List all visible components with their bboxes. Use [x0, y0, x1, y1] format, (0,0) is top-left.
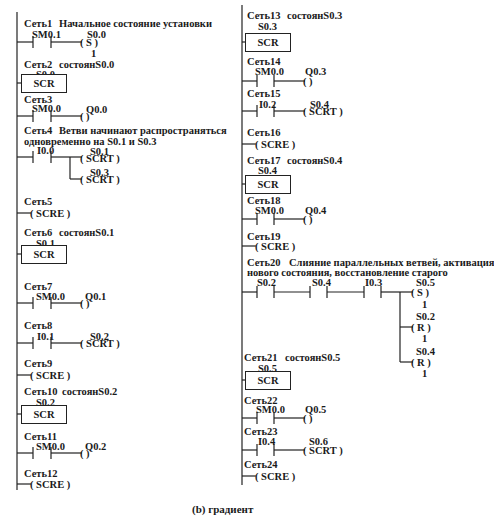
- contact-address: S0.2: [257, 277, 276, 288]
- network-comment: состоянS0.0: [59, 59, 114, 70]
- network-label: Сеть24: [244, 459, 278, 470]
- scr-box: SCR: [21, 74, 67, 93]
- coil-address: S0.4: [416, 346, 435, 357]
- network-comment: состоянS0.2: [62, 386, 117, 397]
- scr-box: SCR: [245, 33, 291, 52]
- network-label: Сеть1: [24, 18, 52, 29]
- output-coil: ( ): [80, 298, 90, 309]
- network-comment: состоянS0.1: [59, 227, 114, 238]
- scre-coil: ( SCRE ): [30, 370, 70, 381]
- scr-address: S0.3: [258, 21, 277, 32]
- network-comment: состоянS0.4: [287, 155, 342, 166]
- contact-address: S0.4: [312, 277, 331, 288]
- contact-address: I0.4: [258, 436, 275, 447]
- scre-coil: ( SCRE ): [255, 139, 295, 150]
- network-label: Сеть9: [24, 358, 52, 369]
- network-comment: Ветви начинают распространяться: [59, 125, 227, 136]
- network-label: Сеть13: [247, 10, 281, 21]
- network-label: Сеть16: [247, 127, 281, 138]
- network-label: Сеть10: [24, 386, 58, 397]
- contact-address: I0.1: [37, 331, 54, 342]
- coil-count: 1: [422, 368, 427, 379]
- scre-coil: ( SCRE ): [30, 208, 70, 219]
- scrt-coil: ( SCRT ): [80, 338, 120, 349]
- contact-address: SM0.0: [255, 205, 284, 216]
- scre-coil: ( SCRE ): [30, 479, 70, 490]
- coil-count: 1: [422, 333, 427, 344]
- reset-coil: ( R ): [411, 322, 431, 333]
- contact-address: I0.3: [365, 277, 382, 288]
- scr-box: SCR: [21, 245, 67, 264]
- network-label: Сеть21: [244, 352, 278, 363]
- contact-address: I0.0: [37, 145, 54, 156]
- network-label: Сеть8: [24, 320, 52, 331]
- network-comment: состоянS0.3: [287, 10, 342, 21]
- scrt-coil: ( SCRT ): [303, 106, 343, 117]
- coil-count: 1: [422, 299, 427, 310]
- output-coil: ( ): [80, 111, 90, 122]
- network-label: Сеть15: [247, 88, 281, 99]
- scre-coil: ( SCRE ): [255, 241, 295, 252]
- set-coil: ( S ): [80, 37, 98, 48]
- scr-box: SCR: [245, 175, 291, 194]
- figure-caption: (b) градиент: [192, 503, 253, 515]
- contact-address: SM0.0: [36, 441, 65, 452]
- contact-address: SM0.0: [255, 66, 284, 77]
- set-coil: ( S ): [411, 287, 429, 298]
- network-label: Сеть4: [24, 125, 52, 136]
- network-label: Сеть6: [24, 227, 52, 238]
- scr-box: SCR: [245, 371, 291, 390]
- network-label: Сеть12: [24, 468, 58, 479]
- network-comment: состоянS0.5: [285, 352, 340, 363]
- coil-address: S0.2: [416, 311, 435, 322]
- contact-address: SM0.0: [36, 291, 65, 302]
- scre-coil: ( SCRE ): [255, 471, 295, 482]
- contact-address: SM0.0: [256, 404, 285, 415]
- contact-address: I0.2: [259, 99, 276, 110]
- contact-address: SM0.1: [32, 29, 61, 40]
- output-coil: ( ): [80, 448, 90, 459]
- contact-address: SM0.0: [32, 103, 61, 114]
- output-coil: ( ): [303, 76, 313, 87]
- output-coil: ( ): [303, 214, 313, 225]
- scrt-coil: ( SCRT ): [303, 445, 343, 456]
- network-label: Сеть5: [24, 196, 52, 207]
- coil-count: 1: [91, 48, 96, 59]
- scrt-coil: ( SCRT ): [80, 153, 120, 164]
- scr-box: SCR: [21, 405, 67, 424]
- output-coil: ( ): [303, 413, 313, 424]
- reset-coil: ( R ): [411, 357, 431, 368]
- network-comment: Начальное состояние установки: [59, 18, 212, 29]
- scrt-coil: ( SCRT ): [80, 174, 120, 185]
